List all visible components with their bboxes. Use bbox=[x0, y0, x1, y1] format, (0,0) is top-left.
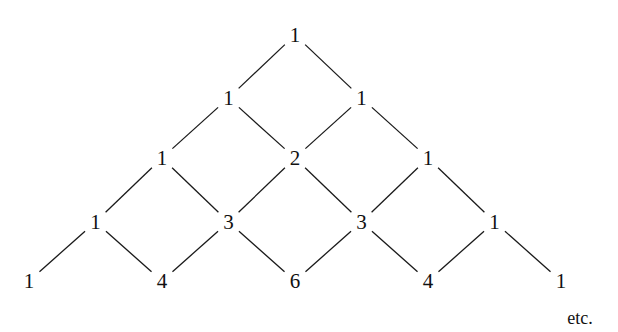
edge-line bbox=[239, 107, 285, 148]
pascal-triangle-diagram: 111121133114641 etc. bbox=[0, 0, 618, 332]
triangle-node: 1 bbox=[556, 271, 567, 292]
triangle-node: 1 bbox=[90, 212, 101, 233]
triangle-node: 2 bbox=[290, 148, 301, 169]
triangle-node: 1 bbox=[24, 271, 35, 292]
edge-line bbox=[305, 231, 351, 271]
edge-line bbox=[438, 168, 484, 213]
triangle-node: 1 bbox=[356, 88, 367, 109]
edge-line bbox=[438, 231, 484, 271]
edge-line bbox=[305, 107, 351, 148]
edge-line bbox=[372, 107, 418, 148]
edge-line bbox=[172, 168, 218, 213]
triangle-node: 1 bbox=[157, 148, 168, 169]
edge-line bbox=[39, 231, 85, 271]
edge-line bbox=[505, 231, 551, 271]
edge-line bbox=[305, 45, 351, 89]
triangle-node: 1 bbox=[290, 25, 301, 46]
edge-line bbox=[106, 168, 152, 213]
triangle-node: 3 bbox=[356, 212, 367, 233]
continuation-label: etc. bbox=[567, 308, 592, 329]
edge-line bbox=[239, 231, 285, 271]
triangle-node: 1 bbox=[489, 212, 500, 233]
edge-line bbox=[172, 107, 218, 148]
edge-line bbox=[239, 168, 285, 213]
triangle-node: 3 bbox=[223, 212, 234, 233]
triangle-node: 4 bbox=[423, 271, 434, 292]
triangle-node: 4 bbox=[157, 271, 168, 292]
edge-line bbox=[372, 231, 418, 271]
triangle-node: 1 bbox=[423, 148, 434, 169]
edge-line bbox=[106, 231, 152, 271]
edge-line bbox=[172, 231, 218, 271]
triangle-node: 1 bbox=[223, 88, 234, 109]
edge-lines bbox=[0, 0, 618, 332]
edge-line bbox=[305, 168, 351, 213]
edge-line bbox=[239, 45, 285, 89]
triangle-node: 6 bbox=[290, 271, 301, 292]
edge-line bbox=[372, 168, 418, 213]
